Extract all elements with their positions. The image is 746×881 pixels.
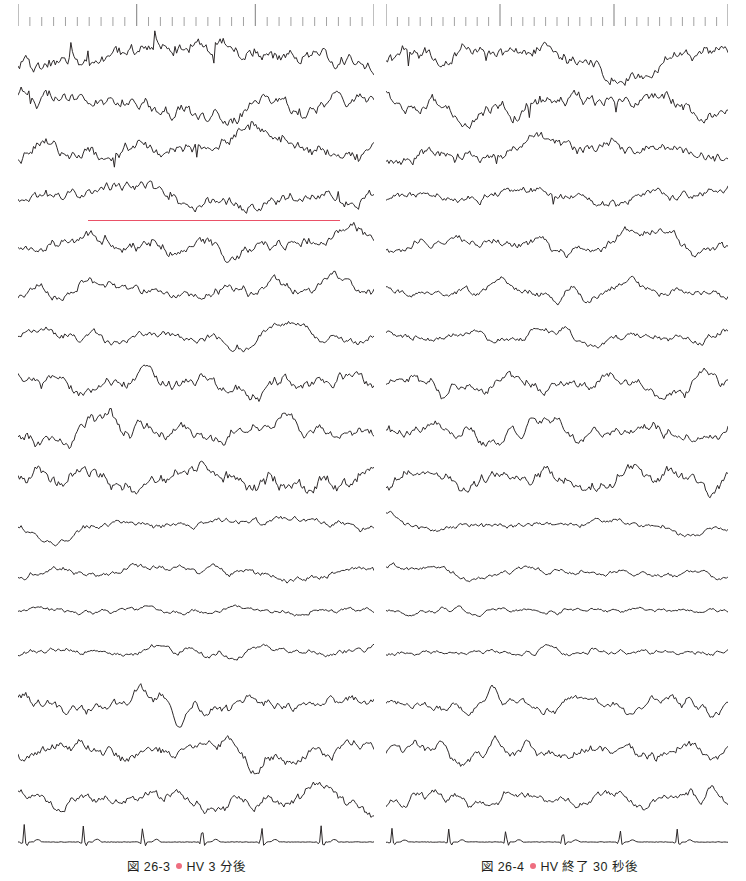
eeg-traces-left — [18, 26, 374, 846]
caption-right: 図 26-4HV 終了 30 秒後 — [373, 856, 746, 875]
ruler-ticks-left — [18, 0, 374, 26]
red-annotation-bar — [88, 220, 340, 221]
eeg-figure: 図 26-3HV 3 分後 図 26-4HV 終了 30 秒後 — [0, 0, 746, 881]
eeg-panel-left — [18, 0, 374, 855]
timescale-ruler-right — [386, 0, 728, 26]
caption-bullet-icon — [530, 863, 536, 869]
eeg-traces-right — [386, 26, 728, 846]
caption-right-text: HV 終了 30 秒後 — [540, 860, 638, 874]
ruler-ticks-right — [386, 0, 728, 26]
trace-canvas-left — [18, 26, 374, 846]
timescale-ruler-left — [18, 0, 374, 26]
caption-left-text: HV 3 分後 — [186, 860, 246, 874]
figure-captions: 図 26-3HV 3 分後 図 26-4HV 終了 30 秒後 — [0, 856, 746, 881]
caption-bullet-icon — [176, 863, 182, 869]
eeg-panel-right — [386, 0, 728, 855]
caption-left-number: 図 26-3 — [127, 860, 171, 874]
trace-canvas-right — [386, 26, 728, 846]
caption-left: 図 26-3HV 3 分後 — [0, 856, 373, 875]
caption-right-number: 図 26-4 — [481, 860, 525, 874]
